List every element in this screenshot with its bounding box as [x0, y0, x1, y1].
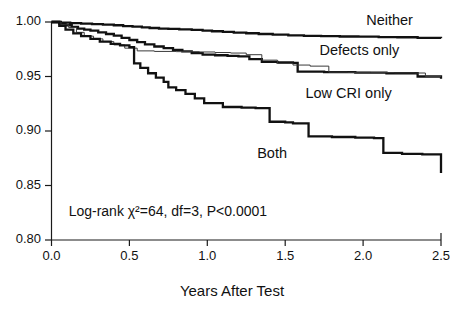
series-label-low-cri-only: Low CRI only — [305, 85, 392, 101]
x-tick-label: 2.0 — [354, 248, 372, 263]
y-tick-label: 0.90 — [16, 122, 41, 137]
x-tick-label: 2.5 — [432, 248, 450, 263]
series-label-both: Both — [257, 145, 287, 161]
series-label-defects-only: Defects only — [319, 42, 400, 58]
x-axis-ticks: 0.00.51.01.52.02.5 — [42, 240, 450, 263]
y-axis-ticks: 1.000.950.900.850.80 — [16, 13, 52, 246]
chart-canvas: 1.000.950.900.850.80 0.00.51.01.52.02.5 … — [0, 0, 457, 311]
y-tick-label: 0.95 — [16, 68, 41, 83]
x-tick-label: 1.0 — [198, 248, 216, 263]
y-tick-label: 1.00 — [16, 13, 41, 28]
survival-curve-figure: 1.000.950.900.850.80 0.00.51.01.52.02.5 … — [0, 0, 457, 311]
x-tick-label: 0.0 — [42, 248, 60, 263]
x-axis-title: Years After Test — [180, 282, 285, 299]
log-rank-annotation: Log-rank χ²=64, df=3, P<0.0001 — [69, 203, 268, 219]
x-tick-label: 1.5 — [276, 248, 294, 263]
y-tick-label: 0.80 — [16, 231, 41, 246]
series-label-neither: Neither — [366, 12, 413, 28]
x-tick-label: 0.5 — [120, 248, 138, 263]
y-tick-label: 0.85 — [16, 177, 41, 192]
